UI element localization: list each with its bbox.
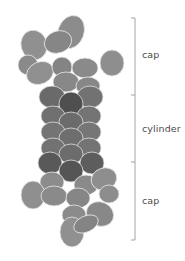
subunit (41, 186, 67, 206)
label-top-cap: cap (142, 49, 159, 60)
top-cap-cluster (18, 12, 124, 95)
label-cylinder: cylinder (142, 123, 181, 134)
cylinder-stack (38, 86, 104, 182)
subunit (66, 188, 90, 208)
subunit (99, 185, 119, 203)
subunit (100, 50, 124, 76)
region-bracket (131, 18, 135, 240)
label-bottom-cap: cap (142, 195, 159, 206)
subunit (38, 152, 62, 174)
